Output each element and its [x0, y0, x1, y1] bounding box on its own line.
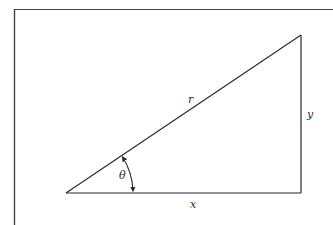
- label-opposite-y: y: [306, 108, 314, 121]
- label-angle-theta: θ: [119, 169, 126, 182]
- triangle: [66, 35, 301, 193]
- diagram-canvas: r y x θ: [0, 0, 333, 225]
- hypotenuse-line: [66, 35, 301, 193]
- triangle-diagram: r y x θ: [0, 0, 333, 225]
- label-adjacent-x: x: [190, 198, 197, 211]
- label-hypotenuse-r: r: [188, 93, 194, 106]
